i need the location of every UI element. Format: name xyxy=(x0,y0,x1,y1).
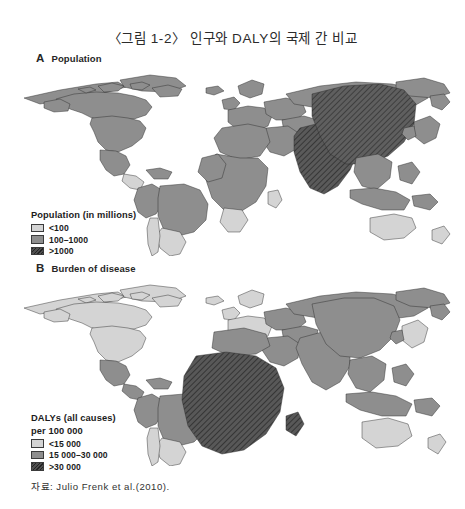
figure-title: 〈그림 1-2〉 인구와 DALY의 국제 간 비교 xyxy=(0,27,465,47)
legend-population-item-mid: 100–1000 xyxy=(31,235,136,245)
region-papua-new-guinea xyxy=(414,398,440,416)
legend-population-item-low: <100 xyxy=(31,223,136,233)
region-caribbean xyxy=(146,168,172,179)
region-madagascar xyxy=(268,190,282,208)
panel-a-letter: A xyxy=(36,52,45,64)
region-mexico xyxy=(100,360,130,386)
region-scandinavia xyxy=(238,80,264,98)
legend-population: Population (in millions) <100 100–1000 >… xyxy=(31,209,136,256)
legend-swatch-high-icon xyxy=(31,247,44,256)
region-iceland xyxy=(206,296,224,305)
region-caribbean xyxy=(146,378,172,389)
region-southeast-asia xyxy=(348,356,386,392)
region-japan xyxy=(402,320,428,348)
legend-population-title: Population (in millions) xyxy=(31,209,136,222)
region-north-africa xyxy=(214,124,270,160)
region-new-zealand xyxy=(432,226,450,244)
legend-burden: DALYs (all causes) per 100 000 <15 000 1… xyxy=(31,412,116,472)
panel-a-label: A Population xyxy=(36,52,102,64)
panel-b-label: B Burden of disease xyxy=(36,262,136,274)
legend-swatch-mid-icon xyxy=(31,451,44,460)
legend-burden-item-mid: 15 000–30 000 xyxy=(31,450,116,460)
region-madagascar xyxy=(286,412,304,436)
region-scandinavia xyxy=(238,290,264,308)
region-chile xyxy=(147,428,160,466)
region-united-states xyxy=(90,326,146,362)
region-kamchatka xyxy=(430,94,450,110)
region-united-states xyxy=(90,116,146,152)
region-arctic-islands xyxy=(78,82,150,93)
source-note: 자료: Julio Frenk et al.(2010). xyxy=(31,479,170,493)
legend-burden-label-low: <15 000 xyxy=(49,439,81,449)
legend-burden-item-high: >30 000 xyxy=(31,462,116,472)
region-new-zealand xyxy=(428,434,446,454)
legend-burden-subtitle: per 100 000 xyxy=(31,425,116,438)
region-southern-africa xyxy=(220,208,248,232)
legend-burden-label-high: >30 000 xyxy=(49,462,81,472)
legend-swatch-low-icon xyxy=(31,439,44,448)
legend-burden-label-mid: 15 000–30 000 xyxy=(49,450,108,460)
region-brazil xyxy=(158,184,208,236)
region-indonesia xyxy=(350,188,410,210)
panel-b-name: Burden of disease xyxy=(52,263,136,274)
region-kamchatka xyxy=(430,304,450,320)
legend-swatch-high-icon xyxy=(31,462,44,471)
region-philippines xyxy=(392,364,414,386)
region-canada xyxy=(56,302,152,330)
region-arctic-islands xyxy=(78,292,150,303)
region-chile xyxy=(147,218,160,256)
region-australia xyxy=(362,418,412,448)
region-southeast-asia xyxy=(354,154,392,190)
region-sub-saharan-africa xyxy=(182,352,284,454)
region-canada xyxy=(56,92,152,120)
region-iceland xyxy=(206,86,224,95)
region-japan xyxy=(414,116,440,144)
panel-b-letter: B xyxy=(36,262,45,274)
region-philippines xyxy=(398,162,420,184)
legend-population-item-high: >1000 xyxy=(31,246,136,256)
figure-page: 〈그림 1-2〉 인구와 DALY의 국제 간 비교 A Population xyxy=(0,0,465,509)
legend-swatch-low-icon xyxy=(31,224,44,233)
legend-population-label-mid: 100–1000 xyxy=(49,235,88,245)
region-korea xyxy=(390,330,404,344)
legend-population-label-high: >1000 xyxy=(49,246,74,256)
region-papua-new-guinea xyxy=(412,194,438,210)
panel-a-name: Population xyxy=(52,53,102,64)
region-mexico xyxy=(100,150,130,176)
legend-population-label-low: <100 xyxy=(49,223,69,233)
region-indonesia xyxy=(346,392,412,416)
legend-swatch-mid-icon xyxy=(31,235,44,244)
legend-burden-item-low: <15 000 xyxy=(31,439,116,449)
region-australia xyxy=(370,214,416,240)
legend-burden-title: DALYs (all causes) xyxy=(31,412,116,425)
